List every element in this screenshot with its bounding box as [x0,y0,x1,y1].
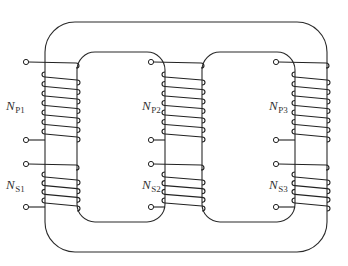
label-np3: NP3 [269,99,288,115]
primary-1-turn-front-6 [45,125,77,128]
primary-1-turn-front-7 [45,134,77,137]
primary-2-turn-front-4 [165,106,202,109]
secondary-1-terminal-bottom [23,204,28,209]
secondary-3-turn-front-4 [295,203,327,206]
secondary-3-turn-front-2 [295,186,327,189]
secondary-2-turn-front-3 [165,194,202,197]
primary-1-turn-front-3 [45,96,77,99]
primary-2-turn-front-6 [165,125,202,128]
secondary-3-turn-front-1 [295,177,327,180]
primary-2-lead-top [154,62,204,68]
primary-2-terminal-bottom [148,137,153,142]
transformer-diagram [0,0,348,266]
secondary-3-terminal-bottom [273,204,278,209]
secondary-2-turn-front-4 [165,203,202,206]
primary-2-turn-front-2 [165,87,202,90]
primary-1-turn-front-5 [45,115,77,118]
label-np2: NP2 [142,99,161,115]
primary-3-turn-front-7 [295,134,327,137]
primary-3-turn-front-5 [295,115,327,118]
primary-2-terminal-top [148,59,153,64]
primary-1-terminal-bottom [23,137,28,142]
core-window-left [77,52,165,222]
secondary-3-terminal-top [273,161,278,166]
secondary-1-turn-front-4 [45,203,77,206]
primary-2-turn-front-7 [165,134,202,137]
primary-3-turn-front-1 [295,77,327,80]
secondary-2-terminal-top [148,161,153,166]
secondary-3-lead-top [279,164,329,170]
secondary-1-turn-front-3 [45,194,77,197]
label-ns1: NS1 [6,178,25,194]
primary-1-turn-front-2 [45,87,77,90]
primary-3-turn-front-2 [295,87,327,90]
primary-2-turn-front-1 [165,77,202,80]
primary-2-turn-front-5 [165,115,202,118]
secondary-1-lead-top [29,164,79,170]
core-outer-outline [45,22,327,252]
primary-1-lead-top [29,62,79,68]
primary-1-turn-front-4 [45,106,77,109]
secondary-1-terminal-top [23,161,28,166]
primary-3-lead-top [279,62,329,68]
primary-3-turn-front-6 [295,125,327,128]
label-ns2: NS2 [142,178,161,194]
secondary-2-turn-front-1 [165,177,202,180]
core-window-right [202,52,295,222]
label-np1: NP1 [6,99,25,115]
secondary-2-terminal-bottom [148,204,153,209]
primary-1-terminal-top [23,59,28,64]
secondary-1-turn-front-1 [45,177,77,180]
primary-3-turn-front-3 [295,96,327,99]
primary-3-terminal-top [273,59,278,64]
primary-3-turn-front-4 [295,106,327,109]
secondary-2-lead-top [154,164,204,170]
primary-2-turn-front-3 [165,96,202,99]
primary-3-terminal-bottom [273,137,278,142]
secondary-3-turn-front-3 [295,194,327,197]
secondary-1-turn-front-2 [45,186,77,189]
secondary-2-turn-front-2 [165,186,202,189]
label-ns3: NS3 [269,178,288,194]
primary-1-turn-front-1 [45,77,77,80]
